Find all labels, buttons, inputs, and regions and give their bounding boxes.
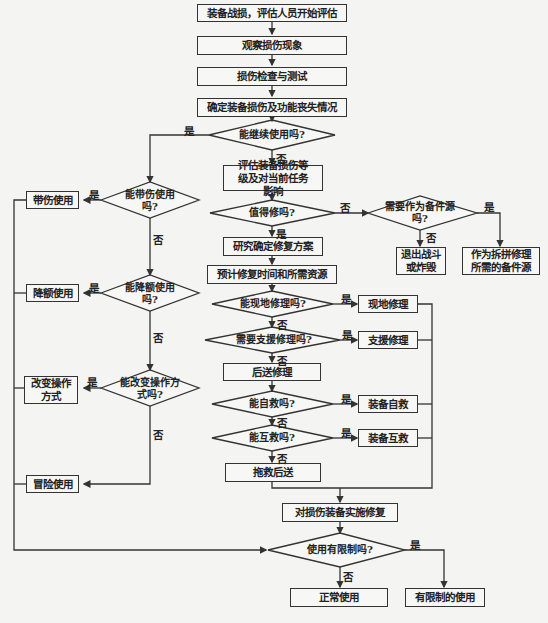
yes-label: 是 [341,391,351,406]
no-label: 否 [277,353,287,368]
tow-back-box: 拖救后送 [225,463,321,482]
self-rescue-decision: 能自救吗? [232,396,312,412]
yes-label: 是 [276,226,286,241]
yes-label: 是 [87,374,97,389]
observe-damage-box: 观察损伤现象 [197,36,347,55]
no-label: 否 [277,317,287,332]
implement-repair-box: 对损伤装备实施修复 [282,503,398,522]
no-label: 否 [276,151,286,166]
no-label: 否 [277,415,287,430]
damaged-use-box: 带伤使用 [26,191,79,209]
determine-damage-box: 确定装备损伤及功能丧失情况 [197,98,347,117]
change-op-decision: 能改变操作方式吗? [116,376,184,402]
yes-label: 是 [89,280,99,295]
assess-damage-box: 评估装备损伤等级及对当前任务影响 [223,165,323,191]
yes-label: 是 [341,291,351,306]
self-rescue-box: 装备自救 [358,395,418,413]
risk-use-box: 冒险使用 [26,475,79,493]
field-repair-decision: 能现地修理吗? [228,296,318,312]
yes-label: 是 [342,327,352,342]
no-label: 否 [343,569,353,584]
retire-box: 退出战斗或炸毁 [396,247,446,275]
need-spare-decision: 需要作为备件源吗? [385,200,455,226]
mutual-rescue-decision: 能互救吗? [232,430,312,446]
normal-use-box: 正常使用 [290,588,388,607]
yes-label: 是 [184,123,194,138]
yes-label: 是 [484,199,494,214]
no-label: 否 [153,232,163,247]
yes-label: 是 [89,187,99,202]
inspect-test-box: 损伤检查与测试 [197,67,347,86]
no-label: 否 [153,427,163,442]
yes-label: 是 [410,537,420,552]
mutual-rescue-box: 装备互救 [358,429,418,447]
damaged-use-decision: 能带伤使用吗? [120,188,180,214]
start-box: 装备战损，评估人员开始评估 [197,4,347,22]
change-op-box: 改变操作方式 [24,376,78,404]
estimate-box: 预计修复时间和所需资源 [207,265,337,284]
study-plan-box: 研究确定修复方案 [223,237,323,256]
support-repair-decision: 需要支援修理吗? [222,332,326,348]
flowchart-canvas: 装备战损，评估人员开始评估 观察损伤现象 损伤检查与测试 确定装备损伤及功能丧失… [0,0,548,623]
support-repair-box: 支援修理 [358,331,418,349]
worth-repair-decision: 值得修吗? [230,205,314,221]
can-continue-decision: 能继续使用吗? [220,127,324,143]
derated-use-box: 降额使用 [26,284,79,302]
spare-source-box: 作为拆拼修理所需的备件源 [462,247,540,275]
yes-label: 是 [341,425,351,440]
rear-repair-box: 后送修理 [223,363,321,381]
no-label: 否 [426,230,436,245]
no-label: 否 [153,330,163,345]
no-label: 否 [277,451,287,466]
restricted-use-box: 有限制的使用 [405,588,485,607]
restricted-decision: 使用有限制吗? [294,542,386,558]
field-repair-box: 现地修理 [358,295,418,313]
no-label: 否 [340,200,350,215]
derated-use-decision: 能降额使用吗? [120,281,180,307]
